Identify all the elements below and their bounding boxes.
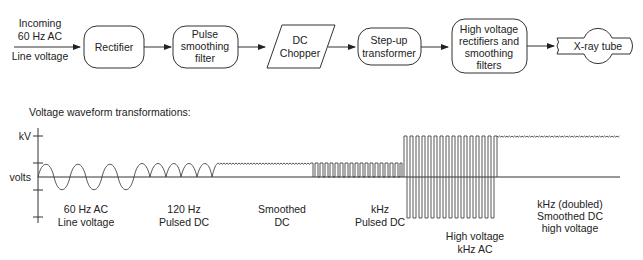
axis-label-volts: volts bbox=[9, 171, 31, 183]
node-pulse-smoothing-filter: Pulse smoothing filter bbox=[173, 26, 238, 68]
svg-text:Pulse: Pulse bbox=[192, 28, 218, 40]
svg-text:kHz (doubled): kHz (doubled) bbox=[537, 198, 602, 210]
svg-text:filter: filter bbox=[195, 52, 215, 64]
svg-text:120 Hz: 120 Hz bbox=[167, 203, 200, 215]
svg-text:High voltage: High voltage bbox=[446, 230, 505, 242]
axis-label-kv: kV bbox=[19, 130, 31, 142]
svg-text:Smoothed: Smoothed bbox=[258, 203, 306, 215]
input-line2: 60 Hz AC bbox=[18, 30, 63, 42]
svg-text:kHz AC: kHz AC bbox=[457, 243, 492, 255]
svg-text:High voltage: High voltage bbox=[460, 23, 519, 35]
svg-text:smoothing: smoothing bbox=[181, 40, 230, 52]
wave-hv-smoothed-dc bbox=[497, 136, 620, 137]
svg-text:60 Hz AC: 60 Hz AC bbox=[64, 203, 109, 215]
stage-label-smoothed-dc: Smoothed DC bbox=[258, 203, 306, 228]
wave-120hz-pulsed-dc bbox=[134, 164, 212, 178]
xray-generator-diagram: Incoming 60 Hz AC Line voltage Rectifier… bbox=[0, 0, 643, 260]
svg-text:X-ray tube: X-ray tube bbox=[574, 40, 623, 52]
svg-text:Line voltage: Line voltage bbox=[58, 216, 115, 228]
svg-text:rectifiers and: rectifiers and bbox=[459, 35, 519, 47]
stage-label-ac-line: 60 Hz AC Line voltage bbox=[58, 203, 115, 228]
svg-text:Rectifier: Rectifier bbox=[95, 41, 134, 53]
svg-text:kHz: kHz bbox=[371, 203, 389, 215]
svg-text:Chopper: Chopper bbox=[280, 47, 321, 59]
svg-text:high voltage: high voltage bbox=[542, 222, 599, 234]
node-rectifier: Rectifier bbox=[84, 26, 144, 68]
wave-smoothed-dc bbox=[212, 163, 313, 177]
svg-text:Step-up: Step-up bbox=[371, 34, 408, 46]
waveform-title: Voltage waveform transformations: bbox=[29, 106, 191, 118]
svg-text:transformer: transformer bbox=[362, 47, 416, 59]
node-step-up-transformer: Step-up transformer bbox=[358, 28, 421, 65]
node-dc-chopper: DC Chopper bbox=[267, 25, 335, 68]
svg-text:DC: DC bbox=[292, 34, 308, 46]
svg-text:smoothing: smoothing bbox=[465, 47, 514, 59]
svg-text:DC: DC bbox=[274, 216, 290, 228]
input-line1: Incoming bbox=[19, 17, 62, 29]
stage-label-hv-khz-ac: High voltage kHz AC bbox=[446, 230, 505, 255]
wave-khz-pulsed-dc bbox=[313, 163, 402, 177]
svg-text:Pulsed DC: Pulsed DC bbox=[159, 216, 210, 228]
svg-text:filters: filters bbox=[476, 59, 501, 71]
stage-label-khz-pulsed-dc: kHz Pulsed DC bbox=[355, 203, 406, 228]
svg-text:Pulsed DC: Pulsed DC bbox=[355, 216, 406, 228]
stage-label-hv-smoothed-dc: kHz (doubled) Smoothed DC high voltage bbox=[537, 198, 603, 234]
node-hv-rectifiers-filters: High voltage rectifiers and smoothing fi… bbox=[452, 19, 527, 73]
input-label: Incoming 60 Hz AC Line voltage bbox=[12, 17, 80, 62]
stage-label-pulsed-dc: 120 Hz Pulsed DC bbox=[159, 203, 210, 228]
input-line3: Line voltage bbox=[12, 50, 69, 62]
svg-text:Smoothed DC: Smoothed DC bbox=[537, 210, 603, 222]
node-xray-tube: X-ray tube bbox=[557, 28, 633, 63]
